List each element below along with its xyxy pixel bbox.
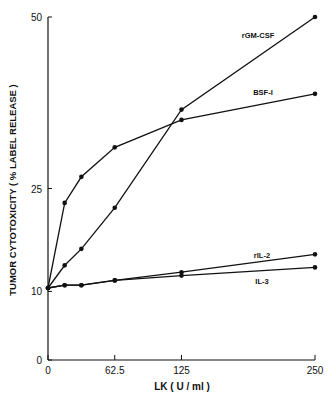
data-point: [79, 175, 84, 180]
data-point: [46, 286, 51, 291]
axes: 0102550062.5125250: [31, 12, 324, 376]
x-axis-label: LK ( U / ml ): [154, 381, 210, 392]
data-point: [313, 265, 318, 270]
data-point: [313, 92, 318, 97]
y-tick-label: 50: [31, 12, 43, 23]
x-tick-label: 0: [45, 365, 51, 376]
y-tick-label: 10: [31, 286, 43, 297]
data-point: [62, 201, 67, 206]
data-point: [313, 252, 318, 257]
series-label: IL-3: [255, 277, 268, 286]
series-labels: rGM-CSFBSF-IrIL-2IL-3: [242, 31, 275, 286]
data-point: [62, 283, 67, 288]
y-tick-label: 25: [31, 184, 43, 195]
data-point: [112, 145, 117, 150]
series-label: rGM-CSF: [242, 31, 275, 40]
data-point: [79, 283, 84, 288]
data-point: [179, 118, 184, 123]
y-axis-label: TUMOR CYTOTOXICITY ( % LABEL RELEASE ): [7, 84, 18, 295]
data-point: [112, 205, 117, 210]
data-point: [179, 273, 184, 278]
data-point: [62, 263, 67, 268]
series-lines: [46, 15, 318, 291]
series-line-rgm-csf: [48, 17, 315, 288]
series-line-bsf-i: [48, 94, 315, 288]
series-label: rIL-2: [254, 251, 270, 260]
data-point: [112, 278, 117, 283]
series-label: BSF-I: [253, 88, 273, 97]
y-tick-label: 0: [36, 355, 42, 366]
data-point: [313, 15, 318, 20]
line-chart: 0102550062.5125250 rGM-CSFBSF-IrIL-2IL-3…: [0, 0, 331, 404]
data-point: [79, 247, 84, 252]
x-tick-label: 125: [173, 365, 190, 376]
x-tick-label: 250: [307, 365, 324, 376]
data-point: [179, 107, 184, 112]
x-tick-label: 62.5: [105, 365, 125, 376]
